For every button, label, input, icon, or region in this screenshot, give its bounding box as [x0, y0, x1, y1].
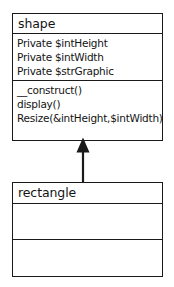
class-methods-compartment-rectangle	[13, 239, 162, 275]
attribute-item: Private $strGraphic	[17, 64, 162, 78]
attribute-item: Private $intWidth	[17, 50, 162, 64]
attribute-list-shape: Private $intHeight Private $intWidth Pri…	[13, 34, 162, 79]
class-name-compartment-rectangle: rectangle	[13, 183, 162, 203]
class-name-compartment-shape: shape	[13, 14, 162, 33]
class-attributes-compartment-rectangle	[13, 203, 162, 239]
method-item: Resize(&intHeight,$intWidth)	[17, 111, 162, 125]
class-box-rectangle[interactable]: rectangle	[12, 182, 163, 277]
method-list-shape: __construct() display() Resize(&intHeigh…	[13, 81, 162, 126]
class-name-rectangle: rectangle	[13, 183, 162, 201]
method-list-rectangle	[13, 240, 162, 242]
attribute-list-rectangle	[13, 204, 162, 206]
method-item: display()	[17, 97, 162, 111]
class-name-shape: shape	[13, 14, 162, 32]
class-attributes-compartment-shape: Private $intHeight Private $intWidth Pri…	[13, 33, 162, 80]
attribute-item: Private $intHeight	[17, 36, 162, 50]
uml-class-diagram-canvas: shape Private $intHeight Private $intWid…	[0, 0, 174, 287]
class-box-shape[interactable]: shape Private $intHeight Private $intWid…	[12, 13, 163, 141]
class-methods-compartment-shape: __construct() display() Resize(&intHeigh…	[13, 80, 162, 139]
method-item: __construct()	[17, 83, 162, 97]
generalization-arrow-icon	[67, 137, 99, 185]
